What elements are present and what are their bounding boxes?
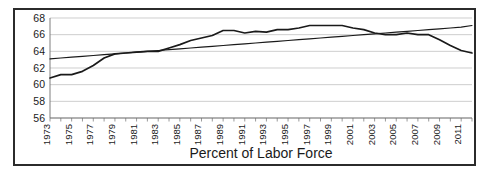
x-tick-label: 1997 xyxy=(301,124,312,145)
x-tick-label: 1995 xyxy=(279,124,290,145)
x-tick-label: 2007 xyxy=(409,124,420,145)
x-tick-label: 1983 xyxy=(149,124,160,145)
y-tick-label: 56 xyxy=(33,112,45,124)
x-tick-label: 1993 xyxy=(257,124,268,145)
x-tick-label: 2003 xyxy=(366,124,377,145)
x-tick-label: 1975 xyxy=(63,124,74,145)
series-line-trend xyxy=(50,26,472,59)
x-tick-label: 2001 xyxy=(344,124,355,145)
x-tick-label: 2011 xyxy=(452,124,463,144)
line-chart: 56586062646668 1973197519771979198119831… xyxy=(15,10,474,164)
x-tick-label: 1991 xyxy=(236,124,247,145)
y-tick-label: 60 xyxy=(33,78,45,90)
x-tick-label: 2009 xyxy=(431,124,442,145)
x-axis-tick-labels: 1973197519771979198119831985198719891991… xyxy=(41,124,463,145)
x-tick-label: 2005 xyxy=(387,124,398,145)
y-tick-label: 62 xyxy=(33,62,45,74)
series-line-participation xyxy=(50,26,472,79)
x-tick-label: 1979 xyxy=(106,124,117,145)
y-tick-label: 64 xyxy=(33,45,45,57)
x-tick-label: 1981 xyxy=(128,124,139,145)
y-axis-tick-labels: 56586062646668 xyxy=(33,12,45,124)
y-tick-label: 68 xyxy=(33,12,45,24)
data-series-group xyxy=(50,26,472,79)
y-tick-label: 58 xyxy=(33,95,45,107)
x-axis-tick-marks xyxy=(50,118,472,122)
x-tick-label: 1977 xyxy=(84,124,95,145)
x-tick-label: 1999 xyxy=(322,124,333,145)
x-tick-label: 1987 xyxy=(192,124,203,145)
x-axis-title: Percent of Labor Force xyxy=(189,145,332,161)
y-tick-label: 66 xyxy=(33,28,45,40)
x-tick-label: 1973 xyxy=(41,124,52,145)
x-tick-label: 1985 xyxy=(171,124,182,145)
x-tick-label: 1989 xyxy=(214,124,225,145)
chart-figure: 56586062646668 1973197519771979198119831… xyxy=(13,8,476,166)
plot-area: 56586062646668 1973197519771979198119831… xyxy=(15,10,474,164)
